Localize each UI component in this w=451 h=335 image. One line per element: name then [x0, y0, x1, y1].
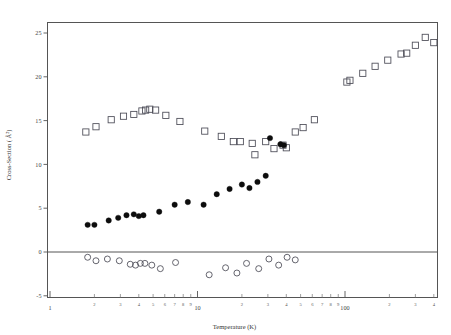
x-tick-minor-label: 7 [321, 302, 324, 307]
data-point-open-circle [142, 260, 148, 266]
data-point-open-square [202, 128, 208, 134]
data-point-open-square [431, 40, 437, 46]
data-point-filled-circle [106, 218, 111, 223]
data-point-open-square [177, 118, 183, 124]
x-tick-minor-label: 4 [433, 302, 436, 307]
data-point-open-circle [104, 256, 110, 262]
data-point-filled-circle [267, 135, 272, 140]
x-tick-minor-label: 4 [285, 302, 288, 307]
data-point-open-square [385, 57, 391, 63]
data-point-open-circle [173, 260, 179, 266]
data-point-open-square [292, 129, 298, 135]
x-tick-minor-label: 8 [330, 302, 333, 307]
data-point-filled-circle [92, 222, 97, 227]
data-point-open-circle [284, 254, 290, 260]
data-point-filled-circle [227, 186, 232, 191]
data-point-open-square [83, 129, 89, 135]
x-tick-label: 10 [194, 304, 200, 311]
data-point-filled-circle [116, 215, 121, 220]
data-point-open-square [218, 133, 224, 139]
data-point-open-square [360, 70, 366, 76]
data-point-open-square [311, 117, 317, 123]
data-point-filled-circle [239, 182, 244, 187]
data-point-open-square [120, 113, 126, 119]
x-tick-minor-label: 5 [299, 302, 302, 307]
x-tick-minor-label: 6 [311, 302, 314, 307]
x-tick-minor-label: 3 [119, 302, 122, 307]
data-point-filled-circle [172, 202, 177, 207]
y-tick-label: 5 [38, 204, 41, 211]
data-point-filled-circle [157, 209, 162, 214]
y-tick-label: 20 [35, 73, 41, 80]
y-tick-label: 25 [35, 29, 41, 36]
data-point-open-square [252, 152, 258, 158]
x-tick-minor-label: 2 [241, 302, 244, 307]
data-point-filled-circle [255, 179, 260, 184]
data-point-open-circle [292, 257, 298, 263]
x-tick-minor-label: 5 [152, 302, 155, 307]
data-point-open-circle [206, 272, 212, 278]
data-point-open-circle [116, 258, 122, 264]
x-tick-minor-label: 7 [174, 302, 177, 307]
data-point-filled-circle [281, 142, 286, 147]
x-tick-minor-label: 3 [267, 302, 270, 307]
data-point-filled-circle [247, 185, 252, 190]
y-tick-label: 10 [35, 161, 41, 168]
data-point-open-square [271, 146, 277, 152]
x-axis-title: Temperature (K) [213, 323, 256, 331]
chart-canvas: -505101520252345678923456789234110100Tem… [0, 0, 451, 335]
data-point-open-square [153, 107, 159, 113]
data-point-filled-circle [263, 173, 268, 178]
y-axis-title: Cross-Section ( Å²) [5, 130, 13, 181]
x-tick-label: 1 [48, 304, 51, 311]
data-point-filled-circle [124, 213, 129, 218]
y-tick-label: 15 [35, 117, 41, 124]
data-point-open-square [131, 111, 137, 117]
y-tick-label: 0 [38, 248, 41, 255]
data-point-filled-circle [214, 191, 219, 196]
data-point-filled-circle [85, 222, 90, 227]
x-tick-minor-label: 6 [164, 302, 167, 307]
data-point-open-circle [223, 265, 229, 271]
data-point-open-circle [234, 270, 240, 276]
x-tick-minor-label: 9 [190, 302, 193, 307]
data-point-filled-circle [131, 212, 136, 217]
data-point-open-square [412, 42, 418, 48]
data-point-open-square [163, 112, 169, 118]
x-tick-minor-label: 2 [93, 302, 96, 307]
data-point-open-square [93, 124, 99, 130]
data-point-open-circle [93, 258, 99, 264]
data-point-open-square [108, 117, 114, 123]
x-tick-minor-label: 2 [388, 302, 391, 307]
data-point-open-circle [149, 262, 155, 268]
data-point-open-circle [276, 262, 282, 268]
data-point-open-circle [266, 256, 272, 262]
data-point-open-circle [85, 254, 91, 260]
data-point-open-circle [244, 260, 250, 266]
x-tick-minor-label: 8 [182, 302, 185, 307]
data-point-open-square [300, 125, 306, 131]
data-point-filled-circle [141, 213, 146, 218]
chart-figure: -505101520252345678923456789234110100Tem… [0, 0, 451, 335]
x-tick-minor-label: 3 [414, 302, 417, 307]
x-tick-label: 100 [340, 304, 349, 311]
data-point-open-square [422, 34, 428, 40]
y-tick-label: -5 [36, 292, 41, 299]
data-point-open-square [230, 139, 236, 145]
x-tick-minor-label: 4 [138, 302, 141, 307]
data-point-open-circle [157, 266, 163, 272]
data-point-open-square [372, 63, 378, 69]
data-point-filled-circle [201, 202, 206, 207]
data-point-open-square [237, 139, 243, 145]
data-point-open-square [249, 140, 255, 146]
data-point-filled-circle [185, 199, 190, 204]
data-point-open-circle [256, 266, 262, 272]
